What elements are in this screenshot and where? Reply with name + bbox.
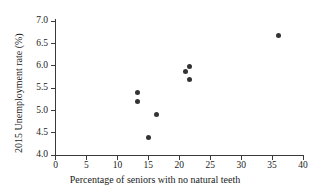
y-tick (51, 110, 55, 111)
y-tick-label: 6.0 (22, 61, 48, 71)
data-point (276, 33, 281, 38)
x-tick (55, 156, 56, 160)
y-tick-label: 7.0 (22, 16, 48, 26)
x-tick (272, 156, 273, 160)
x-tick (179, 156, 180, 160)
data-point (135, 99, 140, 104)
plot-area (56, 21, 304, 155)
data-point (183, 69, 188, 74)
x-tick (210, 156, 211, 160)
y-tick (51, 88, 55, 89)
x-tick-label: 0 (45, 161, 67, 171)
x-tick-label: 5 (75, 161, 97, 171)
x-tick (241, 156, 242, 160)
y-tick (51, 21, 55, 22)
y-tick-label: 5.5 (22, 83, 48, 93)
y-tick-label: 5.0 (22, 106, 48, 116)
x-tick-label: 35 (261, 161, 283, 171)
scatter-chart: 2015 Unemployment rate (%) Percentage of… (0, 0, 310, 194)
data-point (146, 135, 151, 140)
x-tick-label: 30 (230, 161, 252, 171)
y-tick-label: 4.5 (22, 128, 48, 138)
x-tick (117, 156, 118, 160)
data-point (135, 90, 140, 95)
x-tick-label: 10 (106, 161, 128, 171)
data-point (154, 112, 159, 117)
y-tick-label: 6.5 (22, 39, 48, 49)
x-axis-title: Percentage of seniors with no natural te… (0, 174, 310, 185)
y-tick-label: 4.0 (22, 150, 48, 160)
x-tick (303, 156, 304, 160)
x-tick-label: 20 (168, 161, 190, 171)
x-tick (148, 156, 149, 160)
x-tick-label: 15 (137, 161, 159, 171)
x-tick (86, 156, 87, 160)
x-tick-label: 25 (199, 161, 221, 171)
y-tick (51, 43, 55, 44)
x-tick-label: 40 (292, 161, 310, 171)
y-tick (51, 132, 55, 133)
data-point (187, 64, 192, 69)
y-tick (51, 65, 55, 66)
data-point (187, 77, 192, 82)
